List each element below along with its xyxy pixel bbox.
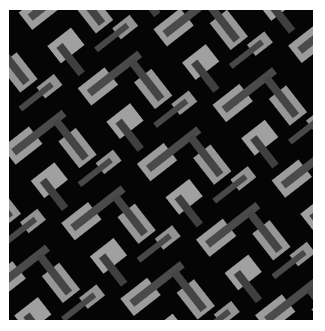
pattern-svg [9,10,313,320]
pattern-fill [9,10,313,320]
pattern-artwork [9,10,313,320]
